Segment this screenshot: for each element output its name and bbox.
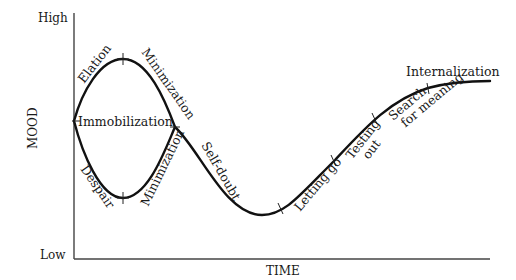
mood-transition-diagram: High Low MOOD TIME Immobilization Elatio… [0, 0, 516, 280]
stage-label-despair: Despair [78, 162, 119, 211]
stage-label-internalization: Internalization [406, 64, 500, 79]
y-axis-low-label: Low [40, 248, 66, 262]
stage-label-self-doubt: Self-doubt [198, 139, 243, 203]
stage-label-immobilization: Immobilization [78, 114, 173, 129]
main-transition-curve [175, 81, 490, 215]
x-axis-title: TIME [266, 264, 300, 278]
y-axis-title: MOOD [26, 107, 40, 149]
stage-label-letting-go: Letting go [291, 154, 344, 214]
stage-label-testing-out: Testing out [343, 116, 394, 170]
axes [74, 13, 490, 259]
stage-label-minimization-lower: Minimization [137, 127, 187, 208]
y-axis-high-label: High [38, 11, 68, 25]
